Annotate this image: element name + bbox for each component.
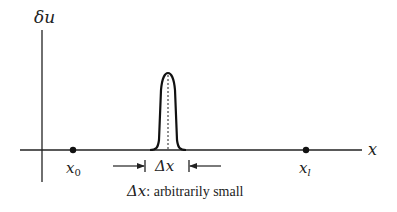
point-x0-label: x0 <box>66 159 81 178</box>
point-xl-label: xl <box>299 159 311 178</box>
point-x0 <box>70 147 76 153</box>
caption: Δx: arbitrarily small <box>126 182 244 200</box>
y-axis-label: δu <box>34 7 55 27</box>
left-arrowhead-icon <box>137 163 145 169</box>
point-xl <box>303 147 309 153</box>
variation-diagram: δu x x0 xl Δx Δx: arbitrarily small <box>0 0 397 212</box>
x-axis-label: x <box>368 140 377 159</box>
width-label: Δx <box>154 157 175 175</box>
